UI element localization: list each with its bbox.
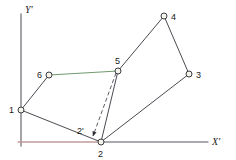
- vertex-label-3: 3: [196, 70, 201, 80]
- vertex-marker-1[interactable]: [18, 107, 24, 113]
- x-axis-label: X': [211, 136, 221, 147]
- edge-1-6: [21, 75, 49, 110]
- vertex-marker-2[interactable]: [98, 139, 104, 145]
- edge-6-5: [49, 71, 118, 75]
- vertex-label-5: 5: [115, 56, 120, 66]
- vertex-label-2: 2: [98, 149, 103, 159]
- vertex-marker-4[interactable]: [161, 13, 167, 19]
- edge-3-2: [101, 74, 189, 142]
- vertex-label-1: 1: [9, 105, 14, 115]
- edges-group: [21, 16, 189, 142]
- vertex-label-2-prime: 2': [77, 126, 84, 136]
- derived-point-group: 2': [77, 126, 84, 136]
- vertex-marker-5[interactable]: [115, 68, 121, 74]
- edge-5-4: [118, 16, 164, 71]
- edge-2-1: [21, 110, 101, 142]
- y-axis-label: Y': [25, 4, 34, 15]
- edge-4-3: [164, 16, 189, 74]
- polygon-diagram: Y' X' 1 2 3 4 5 6 2': [0, 0, 236, 160]
- vertex-marker-3[interactable]: [186, 71, 192, 77]
- vertex-label-6: 6: [37, 70, 42, 80]
- vertex-label-4: 4: [171, 12, 176, 22]
- vertex-marker-6[interactable]: [46, 72, 52, 78]
